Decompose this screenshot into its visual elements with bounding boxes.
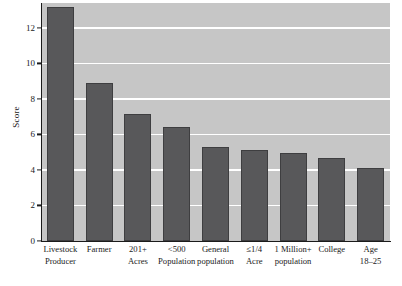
y-axis-line [41,3,42,242]
bar [47,7,74,241]
x-axis-labels: LivestockProducerFarmer201+Acres<500Popu… [41,244,390,286]
bar [163,127,190,241]
bar [202,147,229,241]
x-tick-label: Age18–25 [346,244,396,267]
y-tick-mark [37,134,41,135]
y-tick-label: 2 [9,200,35,210]
y-tick-mark [37,98,41,99]
y-tick-label: 4 [9,165,35,175]
y-tick-label: 6 [9,129,35,139]
bar [357,168,384,241]
bar [86,83,113,241]
bar [318,158,345,241]
bar [124,114,151,241]
y-tick-label: 10 [9,58,35,68]
y-tick-label: 8 [9,94,35,104]
bar [241,150,268,241]
y-tick-mark [37,27,41,28]
bar-chart: Score 024681012 LivestockProducerFarmer2… [0,0,402,286]
y-tick-mark [37,205,41,206]
y-tick-mark [37,63,41,64]
plot-area [41,3,390,241]
bar [280,153,307,241]
y-tick-mark [37,240,41,241]
x-axis-line [41,241,391,242]
y-tick-label: 0 [9,236,35,246]
bars-layer [41,3,390,241]
y-tick-mark [37,169,41,170]
y-tick-label: 12 [9,23,35,33]
